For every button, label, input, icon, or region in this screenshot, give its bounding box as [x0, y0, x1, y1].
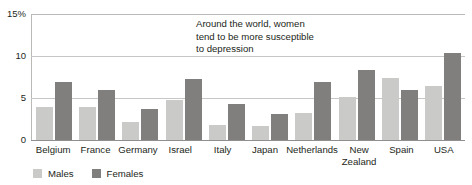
y-tick-label: 0	[0, 135, 26, 145]
bar-females	[185, 79, 202, 140]
bar-males	[339, 97, 356, 140]
legend-label: Males	[48, 168, 74, 179]
bar-males	[122, 122, 139, 140]
plot-area: Around the world, women tend to be more …	[31, 14, 465, 141]
bar-females	[98, 90, 115, 140]
x-tick-label: USA	[423, 144, 465, 167]
bar-males	[382, 78, 399, 140]
bar-females	[228, 104, 245, 140]
bar-females	[141, 109, 158, 140]
bar-group	[119, 14, 162, 140]
legend-label: Females	[107, 168, 144, 179]
bar-females	[444, 53, 461, 140]
x-tick-label: Germany	[117, 144, 159, 167]
bar-males	[166, 100, 183, 140]
bar-group	[292, 14, 335, 140]
x-tick-label: Japan	[244, 144, 286, 167]
bar-males	[209, 125, 226, 140]
bar-males	[425, 86, 442, 140]
bar-group	[205, 14, 248, 140]
x-tick-label: Belgium	[32, 144, 74, 167]
bar-females	[314, 82, 331, 140]
x-tick-label: Italy	[201, 144, 243, 167]
bar-group	[32, 14, 75, 140]
bar-group	[378, 14, 421, 140]
bar-males	[36, 107, 53, 140]
y-tick-label: 5	[0, 93, 26, 103]
bar-females	[358, 70, 375, 140]
bar-group	[162, 14, 205, 140]
bar-series-container	[32, 14, 465, 140]
bar-females	[55, 82, 72, 140]
bar-group	[335, 14, 378, 140]
legend-swatch-icon	[92, 169, 101, 178]
bar-females	[271, 114, 288, 140]
bar-chart-figure: 15% 10 5 0 Around the world, women tend …	[0, 0, 472, 185]
bar-males	[295, 113, 312, 140]
y-tick-label: 10	[0, 51, 26, 61]
y-tick-label: 15%	[0, 9, 26, 19]
legend-item-females: Females	[92, 168, 144, 179]
y-axis: 15% 10 5 0	[0, 0, 26, 185]
bar-group	[422, 14, 465, 140]
bar-group	[248, 14, 291, 140]
x-axis-labels: Belgium France Germany Israel Italy Japa…	[32, 144, 465, 167]
x-tick-label: France	[74, 144, 116, 167]
bar-males	[79, 107, 96, 140]
chart-legend: Males Females	[33, 168, 161, 179]
bar-females	[401, 90, 418, 140]
bar-group	[75, 14, 118, 140]
legend-item-males: Males	[33, 168, 74, 179]
legend-swatch-icon	[33, 169, 42, 178]
x-tick-label: Spain	[380, 144, 422, 167]
bar-males	[252, 126, 269, 140]
x-tick-label: Netherlands	[286, 144, 338, 167]
x-tick-label: New Zealand	[338, 144, 380, 167]
x-tick-label: Israel	[159, 144, 201, 167]
